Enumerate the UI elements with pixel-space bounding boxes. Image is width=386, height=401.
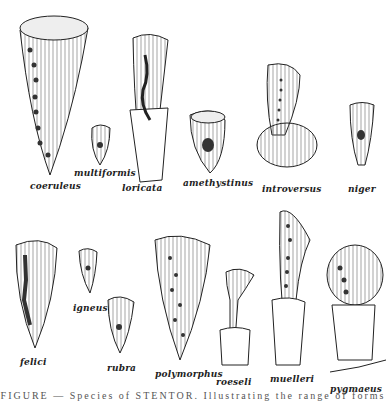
polymorphus-drawing <box>155 236 210 360</box>
label-rubra: rubra <box>107 363 136 373</box>
multiformis-drawing <box>92 125 110 165</box>
igneus-drawing <box>79 249 97 293</box>
roeseli-drawing <box>220 269 254 365</box>
label-roeseli: roeseli <box>216 377 252 387</box>
label-polymorphus: polymorphus <box>155 369 223 379</box>
label-muelleri: muelleri <box>270 374 314 384</box>
loricata-drawing <box>130 34 168 182</box>
felici-drawing <box>16 241 57 348</box>
pygmaeus-drawing <box>327 245 386 372</box>
label-introversus: introversus <box>262 184 321 194</box>
introversus-drawing <box>257 64 317 167</box>
label-felici: felici <box>20 357 47 367</box>
rubra-drawing <box>108 297 134 353</box>
figure-caption: FIGURE — Species of STENTOR. Illustratin… <box>0 390 386 401</box>
niger-drawing <box>350 103 374 166</box>
label-multiformis: multiformis <box>74 168 136 178</box>
label-amethystinus: amethystinus <box>183 178 253 188</box>
muelleri-drawing <box>272 211 310 365</box>
coeruleus-drawing <box>20 16 88 175</box>
label-loricata: loricata <box>122 183 162 193</box>
label-igneus: igneus <box>73 303 108 313</box>
amethystinus-drawing <box>190 111 225 173</box>
label-coeruleus: coeruleus <box>30 181 81 191</box>
label-niger: niger <box>348 184 376 194</box>
